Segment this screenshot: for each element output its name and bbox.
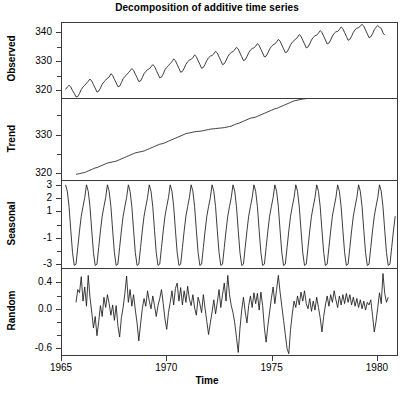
random-series-svg <box>62 269 397 355</box>
panel-trend <box>61 98 398 181</box>
trend-series-line <box>76 99 376 174</box>
chart-title: Decomposition of additive time series <box>0 2 414 13</box>
axis-title-trend: Trend <box>6 109 17 169</box>
y-tick-mark-observed <box>57 47 61 48</box>
y-tick-mark-trend <box>57 115 61 116</box>
y-tick-mark-random <box>56 282 61 283</box>
y-tick-mark-random <box>56 348 61 349</box>
y-tick-mark-trend <box>57 154 61 155</box>
panel-stack <box>61 22 398 356</box>
trend-series-svg <box>62 99 397 180</box>
observed-series-svg <box>62 23 397 98</box>
y-tick-label-seasonal: 2 <box>18 193 52 203</box>
decomposition-plot: Decomposition of additive time series Ob… <box>0 0 414 395</box>
y-tick-label-seasonal: 3 <box>18 180 52 190</box>
axis-title-random: Random <box>6 281 17 341</box>
y-tick-mark-seasonal <box>56 238 61 239</box>
x-tick-label: 1975 <box>252 363 292 373</box>
x-tick-mark <box>272 356 273 361</box>
x-tick-mark <box>61 356 62 361</box>
random-series-line <box>76 273 388 353</box>
y-tick-label-seasonal: -1 <box>18 233 52 243</box>
observed-series-line <box>66 24 385 96</box>
y-tick-mark-trend <box>56 173 61 174</box>
y-tick-label-trend: 320 <box>18 168 52 178</box>
panel-seasonal <box>61 180 398 269</box>
axis-title-observed: Observed <box>6 29 17 89</box>
y-tick-mark-seasonal <box>56 185 61 186</box>
x-tick-mark <box>166 356 167 361</box>
y-tick-label-seasonal: -3 <box>18 259 52 269</box>
seasonal-series-svg <box>62 181 397 268</box>
y-tick-mark-seasonal <box>56 198 61 199</box>
axis-title-seasonal: Seasonal <box>6 194 17 254</box>
y-tick-mark-random <box>57 335 61 336</box>
y-tick-mark-observed <box>56 32 61 33</box>
y-tick-mark-random <box>57 322 61 323</box>
y-tick-label-observed: 340 <box>18 27 52 37</box>
y-tick-mark-seasonal <box>57 225 61 226</box>
y-tick-mark-observed <box>56 61 61 62</box>
y-tick-label-random: 0.0 <box>18 304 52 314</box>
y-tick-label-observed: 330 <box>18 56 52 66</box>
panel-random <box>61 268 398 356</box>
seasonal-series-line <box>66 185 396 266</box>
y-tick-label-seasonal: 1 <box>18 206 52 216</box>
y-tick-mark-trend <box>56 135 61 136</box>
x-tick-label: 1980 <box>357 363 397 373</box>
y-tick-label-random: 0.4 <box>18 277 52 287</box>
axis-title-time: Time <box>0 375 414 386</box>
y-tick-mark-seasonal <box>57 251 61 252</box>
y-tick-mark-random <box>56 309 61 310</box>
x-tick-label: 1970 <box>146 363 186 373</box>
y-tick-label-random: -0.6 <box>18 343 52 353</box>
y-tick-mark-seasonal <box>56 211 61 212</box>
x-tick-label: 1965 <box>41 363 81 373</box>
y-tick-mark-observed <box>57 76 61 77</box>
y-tick-mark-seasonal <box>56 264 61 265</box>
y-tick-mark-observed <box>56 90 61 91</box>
y-tick-label-observed: 320 <box>18 85 52 95</box>
panel-observed <box>61 22 398 99</box>
y-tick-mark-random <box>57 296 61 297</box>
y-tick-label-trend: 330 <box>18 130 52 140</box>
x-tick-mark <box>377 356 378 361</box>
